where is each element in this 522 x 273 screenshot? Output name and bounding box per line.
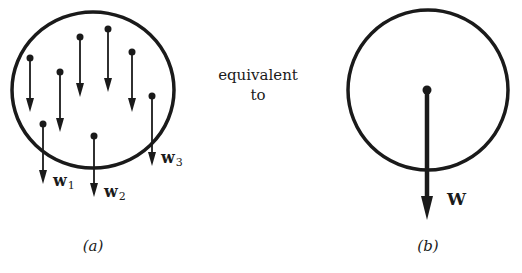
- weight-arrow-w3: [148, 93, 156, 167]
- equivalent-label: equivalent: [218, 66, 298, 84]
- body-outline-circle: [12, 12, 174, 168]
- equivalence-text: equivalent to: [218, 66, 298, 104]
- panel-b: W (b): [348, 10, 508, 255]
- weight-arrow: [128, 49, 136, 113]
- label-w3: w3: [160, 148, 183, 169]
- label-W: W: [446, 189, 467, 209]
- to-label: to: [250, 86, 265, 104]
- caption-a: (a): [83, 237, 104, 255]
- total-weight-arrow: [421, 86, 433, 221]
- equivalent-weight-diagram: w1 w2 w3 (a) equivalent to W (b): [0, 0, 522, 273]
- weight-arrow-w2: [90, 133, 98, 198]
- weight-arrow: [76, 34, 84, 98]
- weight-arrow: [56, 69, 64, 133]
- weight-arrow: [104, 26, 112, 93]
- weight-arrow: [26, 55, 34, 113]
- label-w2: w2: [103, 182, 126, 203]
- panel-a: w1 w2 w3 (a): [12, 12, 183, 255]
- caption-b: (b): [417, 237, 438, 255]
- label-w1: w1: [52, 171, 75, 192]
